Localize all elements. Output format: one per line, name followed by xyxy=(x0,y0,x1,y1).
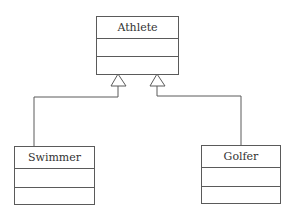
class-attributes-compartment xyxy=(15,169,94,188)
class-operations-compartment xyxy=(202,187,280,203)
class-operations-compartment xyxy=(15,188,94,204)
class-golfer: Golfer xyxy=(201,145,281,204)
generalization-swimmer-athlete xyxy=(34,74,126,146)
class-athlete: Athlete xyxy=(96,16,179,75)
uml-diagram-canvas: Athlete Swimmer Golfer xyxy=(0,0,295,218)
generalization-golfer-athlete xyxy=(150,74,241,145)
class-attributes-compartment xyxy=(202,168,280,187)
class-swimmer: Swimmer xyxy=(14,146,95,205)
inheritance-arrowhead-icon xyxy=(111,74,126,86)
class-name: Golfer xyxy=(202,146,280,168)
class-operations-compartment xyxy=(97,57,178,74)
inheritance-arrowhead-icon xyxy=(150,74,165,86)
class-name: Swimmer xyxy=(15,147,94,169)
class-name: Athlete xyxy=(97,17,178,39)
class-attributes-compartment xyxy=(97,39,178,57)
